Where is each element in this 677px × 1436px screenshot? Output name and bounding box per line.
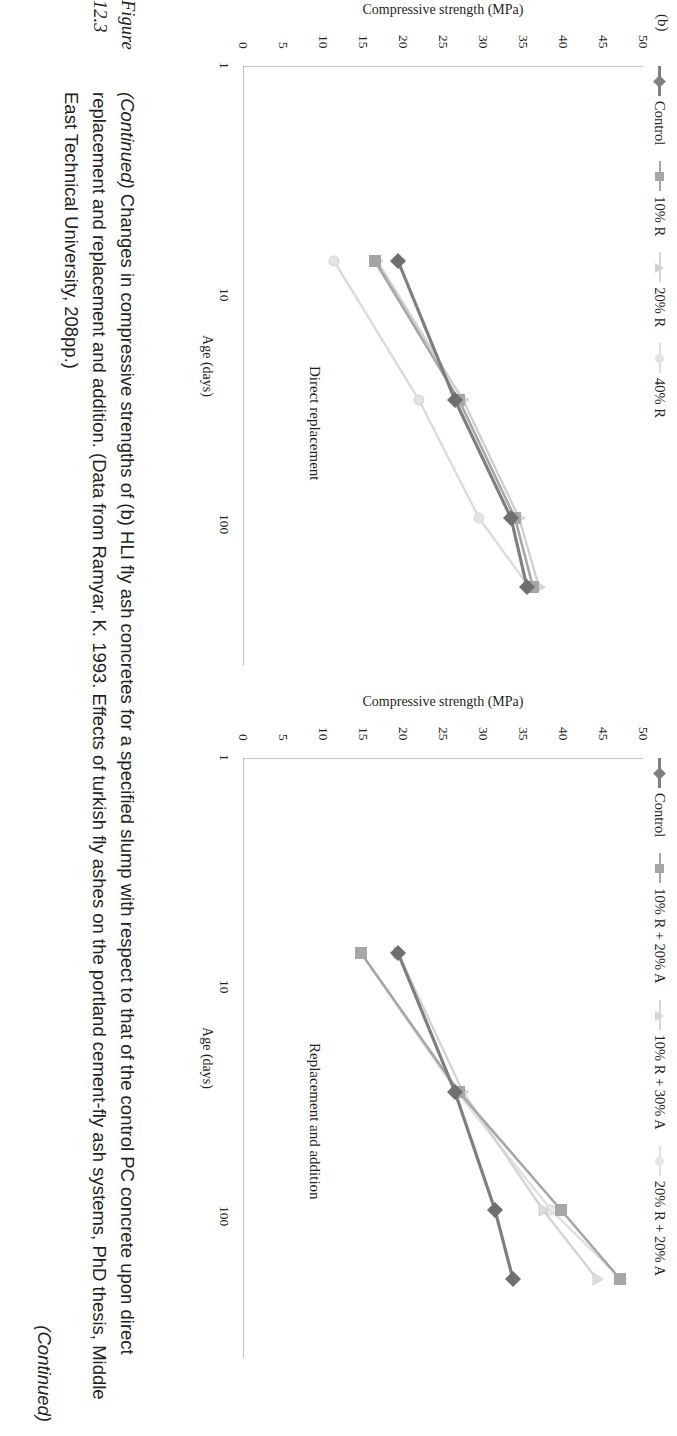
x-tick-label: 10	[216, 288, 232, 302]
legend-marker-circle-icon	[654, 343, 666, 373]
panel-note-replacement-addition: Replacement and addition	[306, 1043, 323, 1200]
x-tick-label: 1	[216, 62, 232, 69]
y-tick-label: 35	[515, 727, 531, 741]
legend-item-10r-30a[interactable]: 10% R + 30% A	[652, 1000, 669, 1130]
legend-marker-circle-icon	[654, 1146, 666, 1176]
plot-svg	[243, 66, 643, 666]
series-markers-20r20a	[356, 948, 626, 1284]
legend-marker-triangle-icon	[654, 1000, 666, 1030]
y-tick-label: 30	[475, 727, 491, 741]
x-tick-label: 1	[216, 754, 232, 761]
series-line-10r	[375, 261, 533, 587]
legend-item-control[interactable]: Control	[652, 758, 669, 837]
series-markers-10r30a	[394, 947, 603, 1285]
series-markers-control	[390, 253, 535, 595]
x-tick-label: 100	[216, 514, 232, 534]
plot-svg	[243, 758, 643, 1358]
y-tick-label: 35	[515, 35, 531, 49]
y-tick-label: 5	[275, 42, 291, 49]
series-markers-10r20a	[355, 947, 626, 1285]
plot-area-replacement-addition: 0 5 10 15 20 25 30 35 40 45 50 1 10 100 …	[243, 758, 643, 1358]
y-tick-label: 25	[435, 727, 451, 741]
series-line-control	[398, 261, 527, 587]
y-tick-label: 5	[275, 734, 291, 741]
series-line-20r20a	[361, 953, 621, 1279]
series-line-10r20a	[361, 953, 620, 1279]
legend-label: Control	[652, 793, 669, 837]
y-tick-label: 50	[635, 727, 651, 741]
series-line-10r30a	[398, 953, 597, 1279]
legend-label: Control	[652, 101, 669, 145]
series-markers-10r	[369, 255, 539, 593]
y-tick-label: 20	[395, 35, 411, 49]
figure-number: Figure 12.3	[86, 0, 142, 86]
legend-item-40r[interactable]: 40% R	[652, 343, 669, 418]
figure-sheet: (b) Control 10% R	[0, 0, 677, 1436]
plot-area-direct-replacement: 0 5 10 15 20 25 30 35 40 45 50 1 10 100 …	[243, 66, 643, 666]
y-tick-label: 10	[315, 35, 331, 49]
legend-direct-replacement: Control 10% R 20% R	[647, 66, 673, 698]
legend-item-10r[interactable]: 10% R	[652, 161, 669, 236]
caption-continued-suffix: (Continued)	[30, 92, 58, 1422]
chart-panel-replacement-addition: Control 10% R + 20% A 10% R + 30% A	[157, 700, 677, 1400]
series-line-40r	[334, 261, 529, 587]
caption-text: Changes in compressive strengths of (b) …	[62, 92, 139, 1400]
legend-marker-diamond-icon	[654, 66, 666, 96]
legend-label: 20% R + 20% A	[652, 1181, 669, 1276]
y-tick-label: 45	[595, 35, 611, 49]
y-tick-label: 45	[595, 727, 611, 741]
x-tick-label: 100	[216, 1206, 232, 1226]
legend-item-20r-20a[interactable]: 20% R + 20% A	[652, 1146, 669, 1276]
panel-letter-b: (b)	[654, 14, 671, 32]
legend-marker-diamond-icon	[654, 758, 666, 788]
legend-item-20r[interactable]: 20% R	[652, 252, 669, 327]
legend-label: 10% R + 30% A	[652, 1035, 669, 1130]
y-tick-label: 30	[475, 35, 491, 49]
legend-label: 10% R + 20% A	[652, 888, 669, 983]
legend-item-control[interactable]: Control	[652, 66, 669, 145]
y-tick-label: 15	[355, 727, 371, 741]
legend-marker-square-icon	[654, 853, 666, 883]
legend-item-10r-20a[interactable]: 10% R + 20% A	[652, 853, 669, 983]
series-line-control	[398, 953, 513, 1279]
legend-marker-triangle-icon	[654, 252, 666, 282]
legend-label: 10% R	[652, 196, 669, 236]
y-axis-title: Compressive strength (MPa)	[243, 694, 643, 714]
y-tick-label: 50	[635, 35, 651, 49]
y-tick-label: 40	[555, 35, 571, 49]
y-tick-label: 0	[235, 42, 251, 49]
x-tick-label: 10	[216, 980, 232, 994]
rotated-page-wrapper: (b) Control 10% R	[0, 0, 677, 1436]
y-tick-label: 10	[315, 727, 331, 741]
chart-panel-direct-replacement: (b) Control 10% R	[157, 8, 677, 708]
legend-label: 40% R	[652, 378, 669, 418]
legend-replacement-addition: Control 10% R + 20% A 10% R + 30% A	[647, 758, 673, 1390]
panel-note-direct-replacement: Direct replacement	[306, 366, 323, 481]
x-axis-title: Age (days)	[199, 758, 215, 1358]
series-markers-20r	[373, 255, 545, 593]
x-axis-title: Age (days)	[199, 66, 215, 666]
legend-marker-square-icon	[654, 161, 666, 191]
y-tick-label: 0	[235, 734, 251, 741]
y-tick-label: 20	[395, 727, 411, 741]
figure-caption: Figure 12.3 (Continued) Changes in compr…	[30, 92, 141, 1422]
y-tick-label: 25	[435, 35, 451, 49]
y-tick-label: 40	[555, 727, 571, 741]
legend-label: 20% R	[652, 287, 669, 327]
caption-continued-prefix: (Continued)	[117, 92, 138, 189]
y-tick-label: 15	[355, 35, 371, 49]
y-axis-title: Compressive strength (MPa)	[243, 2, 643, 22]
figure-area: (b) Control 10% R	[157, 0, 677, 1436]
